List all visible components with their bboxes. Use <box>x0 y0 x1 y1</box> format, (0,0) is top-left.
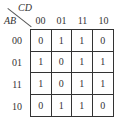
kmap-cell: 1 <box>52 95 73 117</box>
row-header: 01 <box>8 57 26 68</box>
kmap-cell: 1 <box>72 30 93 52</box>
kmap-cell: 0 <box>93 30 114 52</box>
kmap-cell: 1 <box>72 73 93 95</box>
row-header: 00 <box>8 35 26 46</box>
kmap-cell: 0 <box>31 30 52 52</box>
column-header: 01 <box>51 15 72 26</box>
kmap-cell: 1 <box>72 52 93 74</box>
kmap-cell: 0 <box>52 73 73 95</box>
kmap-cell: 1 <box>72 95 93 117</box>
row-header: 10 <box>8 101 26 112</box>
kmap-grid: 0 1 1 0 1 0 1 1 1 0 1 1 0 1 1 0 <box>30 29 114 117</box>
kmap-cell: 1 <box>93 52 114 74</box>
kmap-cell: 1 <box>93 73 114 95</box>
kmap-cell: 0 <box>31 95 52 117</box>
kmap-cell: 0 <box>52 52 73 74</box>
kmap-cell: 0 <box>93 95 114 117</box>
kmap-cell: 1 <box>31 73 52 95</box>
row-variable-label: AB <box>4 15 16 26</box>
row-header: 11 <box>8 79 26 90</box>
kmap-cell: 1 <box>52 30 73 52</box>
kmap-cell: 1 <box>31 52 52 74</box>
column-header: 00 <box>30 15 51 26</box>
column-header: 11 <box>72 15 93 26</box>
column-variable-label: CD <box>18 2 32 13</box>
column-header: 10 <box>93 15 114 26</box>
